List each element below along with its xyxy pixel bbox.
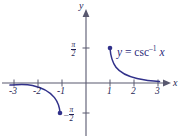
y-tick-label-negative-pi-over-2: – π 2: [64, 106, 74, 123]
endpoint-marker-left-branch: [58, 111, 63, 116]
x-tick-label-2: 2: [131, 87, 136, 97]
two-denominator: 2: [71, 50, 76, 58]
x-tick-label-minus-1: -1: [57, 87, 65, 97]
negative-sign: –: [64, 109, 69, 119]
inverse-cosecant-graph-figure: -3 -2 -1 1 2 3 π 2 – π 2 x y y = csc–1 x: [0, 0, 182, 138]
x-tick-label-minus-3: -3: [9, 87, 17, 97]
x-axis-label: x: [173, 78, 177, 88]
x-tick-label-3: 3: [155, 87, 160, 97]
y-axis-label: y: [79, 1, 83, 11]
x-tick-label-1: 1: [107, 87, 112, 97]
two-denominator: 2: [69, 115, 74, 123]
equation-function-name: csc: [134, 46, 149, 58]
curve-equation-annotation: y = csc–1 x: [117, 44, 165, 58]
y-axis-arrowhead: [83, 9, 90, 17]
plot-canvas: [0, 0, 182, 138]
equation-x-variable: x: [159, 46, 164, 58]
endpoint-marker-right-branch: [108, 46, 113, 51]
equation-exponent: –1: [149, 44, 157, 53]
x-tick-label-minus-2: -2: [33, 87, 41, 97]
y-tick-label-pi-over-2: π 2: [71, 41, 76, 58]
x-axis-arrowhead: [163, 80, 171, 87]
